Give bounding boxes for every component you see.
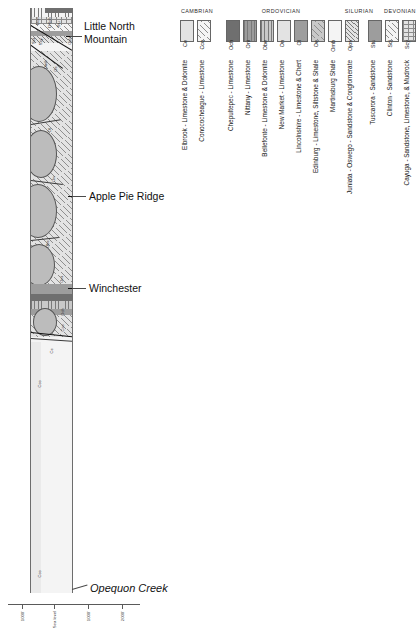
legend-code-omb: Omb (331, 40, 336, 52)
section-code-cco-13: Cco (61, 324, 65, 332)
legend-period-devonian: DEVONIAN (384, 8, 416, 14)
geologic-cross-section: DonDSohStuSciScyOjosOmbOeOlOnObeOniOchCc… (30, 8, 71, 605)
legend-name-stu: Tuscarora - Sandstone (370, 60, 376, 125)
legend-swatch-scy (402, 20, 416, 42)
legend-code-ojos: Ojos (348, 40, 353, 51)
scale-tick-1 (54, 604, 55, 609)
legend-name-ol: Lincolnshire - Limestone & Chert (296, 60, 302, 153)
scale-label-2: 1000' (87, 611, 91, 621)
scale-label-0: 1000' (21, 611, 25, 621)
callout-label: Winchester (89, 282, 142, 295)
legend-name-sci: Clinton - Sandstone (387, 60, 393, 116)
callout-label: Apple Pie Ridge (89, 190, 164, 203)
legend: CAMBRIANORDOVICIANSILURIANDEVONIAN CeElb… (172, 8, 416, 308)
legend-name-och: Chepultepec - Limestone (228, 60, 234, 131)
section-code-sci-3: Sci (32, 38, 36, 44)
legend-swatch-omb (328, 20, 342, 42)
callout-leader (72, 288, 86, 289)
legend-swatch-obe (260, 20, 274, 42)
legend-name-ojos: Juniata - Oswego - Sandstone & Conglomer… (347, 60, 353, 194)
unit-Oni-section (31, 294, 72, 301)
scale-tick-0 (22, 604, 23, 609)
section-code-obe-10: Obe (46, 240, 50, 248)
legend-code-oni: Oni (246, 40, 251, 48)
section-code-on-9: On (52, 176, 56, 182)
legend-swatch-ol (294, 20, 308, 42)
legend-name-oni: Nittany - Limestone (245, 60, 251, 115)
legend-code-obe: Obe (263, 40, 268, 50)
legend-code-ce: Ce (183, 40, 188, 47)
legend-swatch-oni (243, 20, 257, 42)
legend-code-oe: Oe (314, 40, 319, 47)
cross-section-column (30, 8, 73, 593)
legend-name-omb: Martinsburg Shale (330, 60, 336, 112)
legend-code-stu: Stu (371, 40, 376, 48)
legend-name-obe: Bellefonte - Limestone & Dolomite (262, 60, 268, 157)
section-code-don-0: Don (36, 17, 40, 25)
legend-swatch-cco (197, 20, 211, 42)
section-code-och-12: Och (61, 308, 65, 316)
callout-label: Little North Mountain (84, 20, 135, 45)
callout-leader (72, 585, 88, 590)
diagram-canvas: DonDSohStuSciScyOjosOmbOeOlOnObeOniOchCc… (0, 0, 418, 632)
section-code-ol-8: Ol (48, 128, 52, 132)
elevation-scale: 1000'Sea level1000'2000' (8, 604, 148, 630)
scale-label-1: Sea level (53, 611, 57, 628)
legend-name-oe: Edinburg - Limestone, Siltstone & Shale (313, 60, 319, 173)
legend-name-cco: Conococheague - Limestone (199, 60, 205, 142)
legend-code-ol: Ol (297, 40, 302, 45)
section-code-omb-6: Omb (44, 60, 48, 69)
legend-swatch-ojos (345, 20, 359, 42)
legend-swatch-och (226, 20, 240, 42)
scale-label-3: 2000' (121, 611, 125, 621)
scale-tick-2 (88, 604, 89, 609)
section-code-scy-4: Scy (39, 38, 43, 45)
legend-swatch-on (277, 20, 291, 42)
callout-leader (72, 196, 86, 197)
scale-tick-3 (122, 604, 123, 609)
scale-axis (8, 604, 140, 605)
callout-leader (70, 36, 82, 37)
unit-Och-section (31, 301, 72, 309)
legend-period-ordovician: ORDOVICIAN (226, 8, 336, 14)
section-code-oni-11: Oni (60, 276, 64, 283)
legend-code-sci: Sci (388, 40, 393, 48)
legend-name-ce: Elbrook - Limestone & Dolomite (182, 60, 188, 150)
legend-period-cambrian: CAMBRIAN (180, 8, 214, 14)
section-code-stu-2: Stu (57, 21, 61, 27)
legend-swatch-stu (368, 20, 382, 42)
section-code-ce-14: Ce (50, 348, 54, 353)
section-code-ojos-5: Ojos (68, 36, 72, 45)
legend-swatch-sci (385, 20, 399, 42)
unit-Don-section (45, 8, 72, 13)
legend-code-scy: Scy (405, 40, 410, 49)
section-code-dsoh-1: DSoh (48, 17, 52, 28)
legend-code-on: On (280, 40, 285, 47)
section-code-oe-7: Oe (54, 66, 58, 72)
legend-swatch-ce (180, 20, 194, 42)
section-code-cco-15: Cco (38, 380, 42, 388)
legend-name-on: New Market - Limestone (279, 60, 285, 129)
callout-label: Opequon Creek (90, 582, 168, 595)
unit-Obe-section (31, 284, 72, 294)
legend-code-cco: Cco (200, 40, 205, 50)
legend-code-och: Och (229, 40, 234, 50)
legend-name-scy: Cayuga - Sandstone, Limestone, & Mudrock (404, 60, 410, 185)
legend-swatch-oe (311, 20, 325, 42)
legend-period-silurian: SILURIAN (340, 8, 378, 14)
section-code-cco-16: Cco (38, 570, 42, 578)
